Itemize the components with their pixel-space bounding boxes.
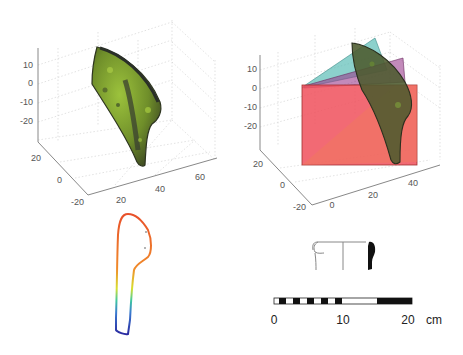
panel-b-3d-plot: 10 0 -10 -20 20 0 -20 0 20 40 — [244, 28, 440, 212]
z-tick-label: -10 — [20, 97, 33, 107]
panel-a-y-ticks: 20 0 -20 — [31, 153, 84, 207]
scale-label-0: 0 — [271, 313, 278, 327]
scale-label-10: 10 — [336, 313, 350, 327]
panel-b-x-ticks: 0 20 40 — [329, 178, 418, 210]
z-tick-label: 0 — [252, 83, 257, 93]
y-tick-label: 0 — [280, 180, 285, 190]
y-tick-label: 0 — [57, 175, 62, 185]
scale-bar: 0 10 20 cm — [271, 298, 442, 327]
panel-a-3d-plot: 10 0 -10 -20 20 0 -20 20 40 60 — [20, 20, 217, 207]
x-tick-label: 0 — [329, 200, 334, 210]
profile-outline — [116, 214, 151, 334]
rim-drawing — [313, 242, 375, 270]
x-tick-label: 40 — [155, 184, 165, 194]
z-tick-label: -20 — [20, 116, 33, 126]
y-tick-label: 20 — [253, 159, 263, 169]
panel-a-x-ticks: 20 40 60 — [116, 172, 205, 205]
z-tick-label: 10 — [247, 64, 257, 74]
x-tick-label: 20 — [116, 195, 126, 205]
panel-b-z-ticks: 10 0 -10 -20 — [244, 64, 257, 131]
x-tick-label: 20 — [368, 190, 378, 200]
sherd-surface-mesh — [92, 47, 161, 166]
figure-canvas: 10 0 -10 -20 20 0 -20 20 40 60 — [0, 0, 463, 355]
panel-b-y-ticks: 20 0 -20 — [253, 159, 306, 212]
y-tick-label: -20 — [71, 197, 84, 207]
scale-unit: cm — [426, 313, 442, 327]
x-tick-label: 60 — [195, 172, 205, 182]
scale-label-20: 20 — [401, 313, 415, 327]
z-tick-label: 0 — [28, 78, 33, 88]
z-tick-label: -10 — [244, 102, 257, 112]
z-tick-label: 10 — [23, 60, 33, 70]
y-tick-label: 20 — [31, 153, 41, 163]
z-tick-label: -20 — [244, 121, 257, 131]
y-tick-label: -20 — [293, 202, 306, 212]
x-tick-label: 40 — [408, 178, 418, 188]
panel-a-z-ticks: 10 0 -10 -20 — [20, 60, 33, 126]
